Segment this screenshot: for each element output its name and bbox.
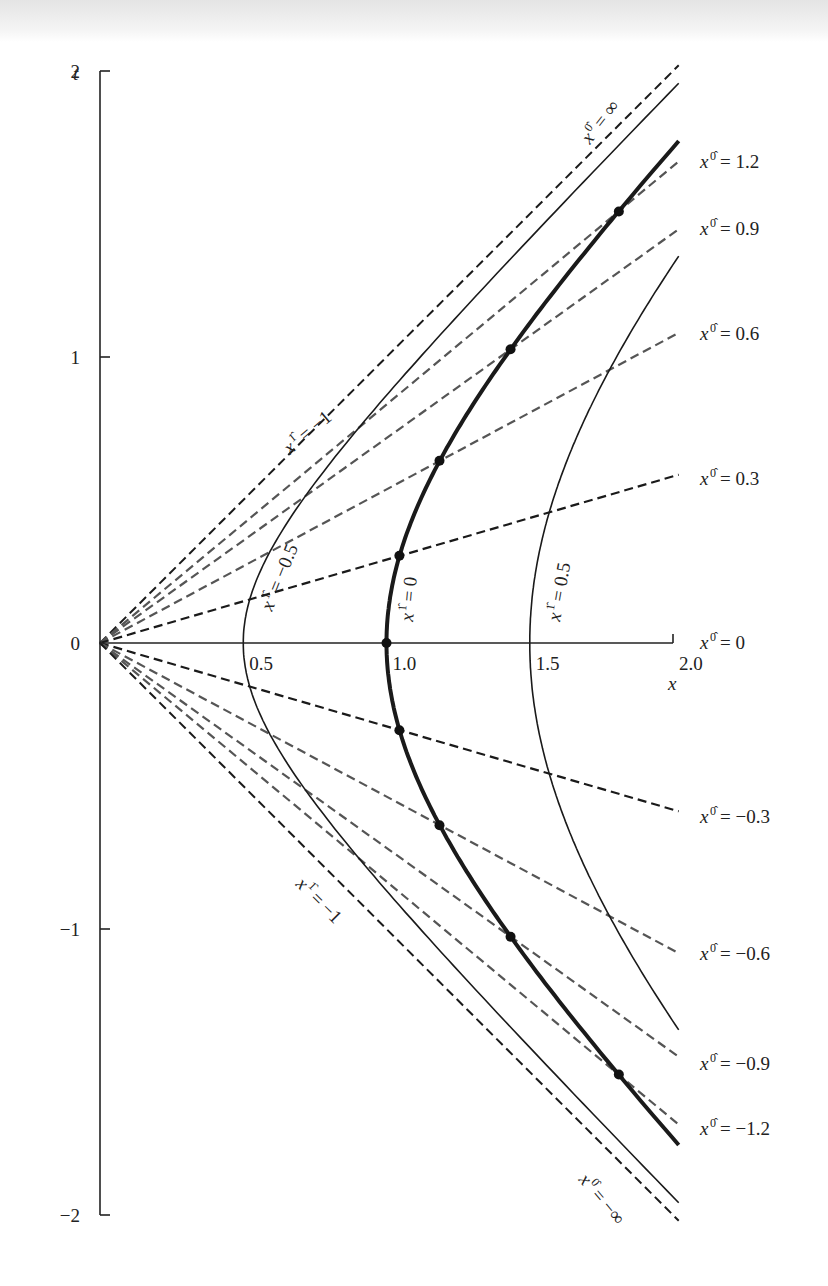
label-var: x — [699, 323, 709, 344]
label-rhs: = −0.9 — [720, 1053, 770, 1074]
dashed-line-x0hat- — [100, 643, 679, 1221]
label-rhs: = 0.5 — [547, 561, 574, 603]
x-axis-label: x — [667, 673, 677, 694]
label-x0hat-neginf: x0̂= −∞ — [574, 1167, 631, 1228]
label-sup: 1̂ — [395, 602, 410, 611]
axes: 210−1−20.51.01.52.0tx — [60, 61, 703, 1226]
label-rhs: = −0.3 — [720, 806, 770, 827]
label-rhs: = 0.3 — [720, 468, 759, 489]
t-tick-label: 0 — [71, 633, 81, 654]
label-x0hat-0: x0̂= 0 — [699, 630, 745, 653]
label-x1hat-neg1-lower: x1̂= −1 — [291, 871, 347, 927]
label-x0hat-inf: x0̂= ∞ — [574, 95, 623, 149]
label-rhs: = 1.2 — [720, 151, 759, 172]
dashed-line-x0hat-0.9 — [100, 229, 679, 643]
label-sup: 0̂ — [710, 1116, 718, 1130]
label-rhs: = −∞ — [588, 1184, 630, 1228]
label-var: x — [699, 943, 709, 964]
label-rhs: = −1 — [306, 887, 346, 927]
label-sup: 1̂ — [543, 601, 558, 611]
label-x0hat-0.9: x0̂= 0.9 — [699, 216, 759, 239]
label-rhs: = 0.9 — [720, 218, 759, 239]
label-var: x — [699, 1118, 709, 1139]
t-tick-label: −2 — [60, 1205, 80, 1226]
event-point — [506, 344, 516, 354]
t-tick-label: 1 — [71, 347, 81, 368]
label-var: x — [699, 1053, 709, 1074]
label-var: x — [699, 218, 709, 239]
event-point — [435, 820, 445, 830]
label-sup: 0̂ — [710, 941, 718, 955]
label-x0hat-−0.9: x0̂= −0.9 — [699, 1051, 770, 1074]
event-point — [394, 725, 404, 735]
event-point — [382, 638, 392, 648]
event-point — [614, 206, 624, 216]
label-sup: 0̂ — [710, 630, 718, 644]
label-x0hat-−1.2: x0̂= −1.2 — [699, 1116, 770, 1139]
dashed-line-x0hat-1.2 — [100, 643, 679, 1125]
dashed-line-x0hat-0.9 — [100, 643, 679, 1057]
x-tick-label: 0.5 — [249, 653, 273, 674]
x-tick-label: 1.0 — [393, 653, 417, 674]
label-rhs: = −1 — [294, 406, 335, 445]
label-x0hat-−0.3: x0̂= −0.3 — [699, 804, 770, 827]
label-var: x — [543, 610, 565, 623]
x-tick-label: 2.0 — [679, 653, 703, 674]
event-point — [435, 456, 445, 466]
event-point — [394, 551, 404, 561]
label-sup: 0̂ — [710, 321, 718, 335]
t-axis-label: t — [73, 63, 79, 84]
label-var: x — [699, 632, 709, 653]
event-point — [614, 1070, 624, 1080]
label-var: x — [396, 612, 418, 624]
label-var: x — [699, 806, 709, 827]
dashed-line-x0hat-1.2 — [100, 161, 679, 643]
label-rhs: = 0 — [398, 576, 421, 603]
label-rhs: = 0 — [720, 632, 745, 653]
label-rhs: = −0.6 — [720, 943, 770, 964]
label-sup: 0̂ — [710, 216, 718, 230]
label-var: x — [699, 468, 709, 489]
dashed-line-x0hat- — [100, 65, 679, 643]
t-tick-label: −1 — [60, 919, 80, 940]
label-x1hat-0.5: x1̂= 0.5 — [541, 560, 574, 623]
rindler-coordinates-chart: 210−1−20.51.01.52.0tx x0̂= 1.2x0̂= 0.9x0… — [0, 0, 828, 1286]
label-x1hat-0: x1̂= 0 — [394, 576, 421, 624]
label-x0hat-1.2: x0̂= 1.2 — [699, 149, 759, 172]
label-var: x — [699, 151, 709, 172]
event-point — [506, 932, 516, 942]
label-x1hat-neg1: x1̂= −1 — [277, 405, 335, 459]
label-rhs: = −1.2 — [720, 1118, 770, 1139]
label-x0hat-0.3: x0̂= 0.3 — [699, 466, 759, 489]
label-sup: 0̂ — [710, 466, 718, 480]
label-rhs: = 0.6 — [720, 323, 759, 344]
x-tick-label: 1.5 — [536, 653, 560, 674]
label-x0hat-−0.6: x0̂= −0.6 — [699, 941, 770, 964]
label-sup: 0̂ — [710, 804, 718, 818]
label-sup: 0̂ — [710, 149, 718, 163]
label-x1hat-neg0.5: x1̂= −0.5 — [254, 540, 302, 614]
label-x0hat-0.6: x0̂= 0.6 — [699, 321, 759, 344]
label-sup: 0̂ — [710, 1051, 718, 1065]
